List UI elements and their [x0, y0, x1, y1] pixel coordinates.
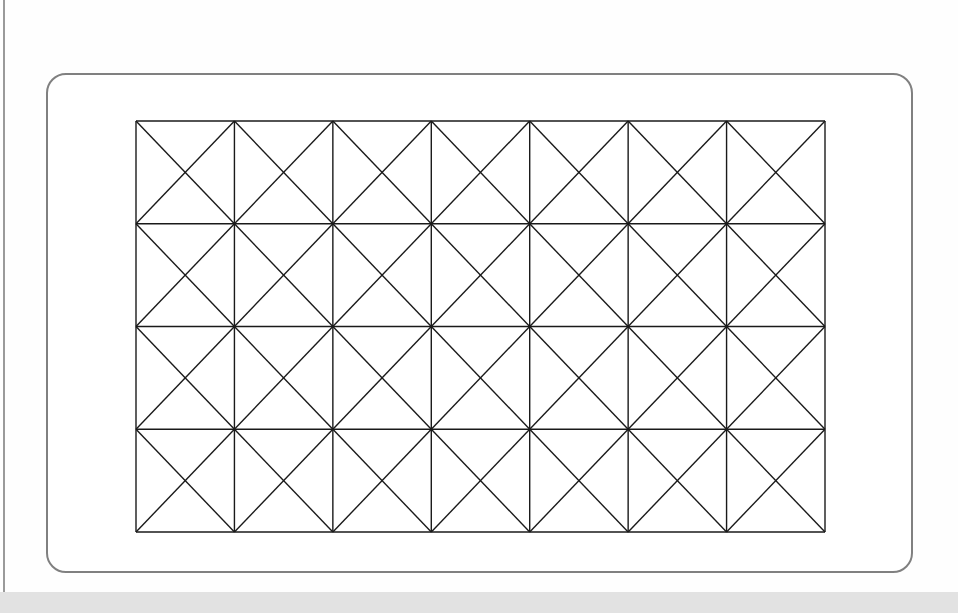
grid-svg: [136, 121, 825, 532]
bottom-status-band: [0, 592, 958, 613]
rounded-panel: [46, 73, 913, 573]
app-root: [0, 0, 958, 613]
diagonal-grid-surface[interactable]: [136, 121, 825, 532]
grid-horizontal-lines: [136, 121, 825, 532]
left-edge-rule: [3, 0, 5, 613]
